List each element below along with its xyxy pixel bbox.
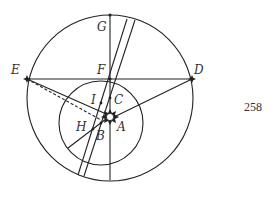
label-i: I [90,93,96,107]
point-h [92,128,95,131]
label-e: E [10,63,20,77]
point-i [100,102,103,105]
dashed-line-e-b [27,79,101,120]
label-d: D [193,63,204,77]
line-d-a [114,79,192,117]
point-g [108,13,111,16]
label-h: H [75,120,87,134]
label-a: A [116,120,126,134]
point-f [108,77,111,80]
point-c [109,97,112,100]
label-c: C [114,93,123,107]
astronomy-diagram: G E F D I C H A B 258 [0,0,278,200]
label-g: G [97,20,107,34]
label-f: F [96,63,106,77]
label-b: B [95,129,105,143]
page-number: 258 [244,100,262,114]
point-b [100,122,103,125]
